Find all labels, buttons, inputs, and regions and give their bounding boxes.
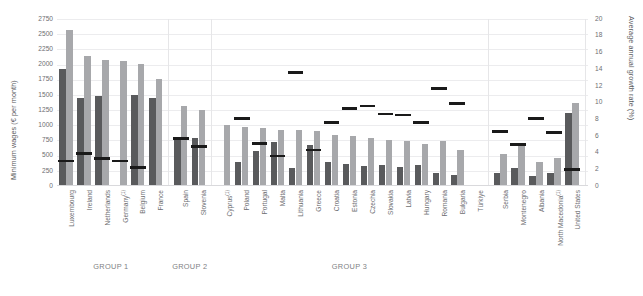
bar-later [296,130,302,186]
bar-earlier [235,162,241,186]
left-tick-label: 2250 [0,46,53,53]
bar-later [278,130,284,186]
category-label: Romania [442,190,449,216]
bar-earlier [253,151,259,186]
bar-later [66,30,72,186]
bar-later [156,79,162,186]
bar-later [572,103,578,186]
growth-rate-marker [288,71,304,74]
bar-earlier [565,113,571,186]
footnote-marker: (1) [225,190,230,196]
growth-rate-marker [342,107,358,110]
bar-group [215,19,233,186]
left-tick-label: 0 [0,183,53,190]
growth-rate-marker [546,131,562,134]
bar-later [120,61,126,186]
category-labels: LuxembourgIrelandNetherlandsGermany(1)Be… [57,190,588,252]
bar-later [102,60,108,186]
category-label: Netherlands [105,190,112,226]
left-tick-label: 2500 [0,31,53,38]
bar-group [251,19,269,186]
category-label: Portugal [262,190,269,215]
bar-later [457,150,463,186]
growth-rate-marker [431,87,447,90]
bar-group [394,19,412,186]
bar-group [448,19,466,186]
bar-earlier [95,96,101,186]
right-tick-label: 14 [595,66,602,73]
right-tick-label: 0 [595,183,599,190]
bar-earlier [415,165,421,186]
bar-later [386,140,392,186]
bar-group [412,19,430,186]
bar-group [358,19,376,186]
bar-later [332,135,338,186]
left-tick-label: 250 [0,168,53,175]
bar-group [491,19,509,186]
category-label: Lithuania [298,190,305,217]
bar-earlier [131,95,137,186]
bar-earlier [174,140,180,186]
bar-later [224,125,230,186]
category-label: Bulgaria [460,190,467,214]
growth-rate-marker [510,143,526,146]
growth-rate-marker [360,105,376,108]
category-label: Ireland [87,190,94,210]
bar-group [430,19,448,186]
bar-earlier [59,69,65,186]
category-label: Montenegro [521,190,528,225]
category-label: Czechia [370,190,377,214]
bar-group [57,19,75,186]
bar-later [84,56,90,186]
category-label: United States [575,190,582,230]
bar-earlier [271,142,277,186]
bar-later [440,141,446,186]
left-tick-label: 2000 [0,61,53,68]
bar-group [190,19,208,186]
category-label: Albania [539,190,546,212]
right-axis-title: Average annual growth rate (%) [627,16,636,120]
bar-earlier [343,164,349,186]
growth-rate-marker [564,168,580,171]
bar-group [323,19,341,186]
bar-group [340,19,358,186]
category-label: Greece [316,190,323,212]
group-label: GROUP 2 [172,262,207,271]
right-tick-label: 12 [595,83,602,90]
bar-later [404,141,410,186]
growth-rate-marker [492,130,508,133]
bar-group [129,19,147,186]
category-label: Slovakia [388,190,395,215]
bar-later [422,144,428,187]
footnote-marker: (1) [556,190,561,196]
bar-group [563,19,581,186]
bar-earlier [361,166,367,186]
left-tick-label: 2750 [0,16,53,23]
bar-group [287,19,305,186]
category-label: Malta [280,190,287,206]
growth-rate-marker [191,145,207,148]
footnote-marker: (1) [121,190,126,196]
bar-group [545,19,563,186]
bar-group [305,19,323,186]
bar-later [242,127,248,187]
group-label: GROUP 1 [93,262,128,271]
bar-group [527,19,545,186]
left-tick-label: 1500 [0,92,53,99]
growth-rate-marker [112,160,128,163]
left-tick-label: 750 [0,137,53,144]
growth-rate-marker [449,102,465,105]
bar-group [147,19,165,186]
category-label: Luxembourg [69,190,76,227]
right-tick-label: 18 [595,32,602,39]
bar-earlier [379,165,385,186]
category-label: Germany(1) [122,190,130,223]
category-label: Latvia [406,190,413,208]
category-label: Croatia [334,190,341,211]
category-label: Spain [183,190,190,207]
growth-rate-marker [395,114,411,117]
bar-later [350,136,356,186]
bar-later [500,154,506,186]
growth-rate-marker [58,160,74,163]
bar-later [368,138,374,186]
